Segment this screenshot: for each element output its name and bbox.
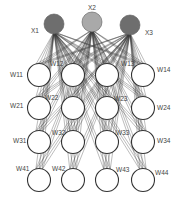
weight-label-w11: W11 [10, 71, 23, 78]
weight-label-w14: W14 [157, 66, 171, 73]
weight-label-w44: W44 [155, 169, 169, 176]
input-label-x2: X2 [88, 4, 96, 11]
weight-node-w34 [132, 131, 155, 154]
input-label-x1: X1 [31, 27, 39, 34]
weight-label-w43: W43 [116, 166, 130, 173]
input-node-x2 [82, 12, 102, 32]
weight-label-w21: W21 [10, 102, 24, 109]
neural-network-diagram: X1X2X3W11W12W13W14W21W22W23W24W31W32W33W… [0, 0, 183, 201]
weight-node-w11 [28, 64, 51, 87]
weight-node-w24 [132, 97, 155, 120]
input-nodes [44, 12, 140, 35]
input-label-x3: X3 [145, 29, 153, 36]
weight-node-w22 [62, 97, 85, 120]
weight-node-w13 [96, 64, 119, 87]
weight-node-w14 [132, 64, 155, 87]
weight-label-w32: W32 [52, 129, 66, 136]
weight-node-w12 [62, 64, 85, 87]
weight-label-w33: W33 [116, 129, 130, 136]
weight-node-w31 [28, 131, 51, 154]
weight-label-w24: W24 [157, 104, 171, 111]
weight-label-w42: W42 [52, 165, 66, 172]
weight-label-w22: W22 [45, 94, 59, 101]
weight-label-w12: W12 [50, 60, 64, 67]
input-node-x1 [44, 14, 64, 34]
weight-label-w34: W34 [157, 137, 171, 144]
weight-label-w41: W41 [16, 165, 30, 172]
input-node-x3 [120, 15, 140, 35]
weight-node-w41 [28, 169, 51, 192]
weight-node-w44 [132, 169, 155, 192]
weight-label-w31: W31 [13, 137, 27, 144]
weight-label-w23: W23 [114, 95, 128, 102]
weight-label-w13: W13 [121, 60, 135, 67]
